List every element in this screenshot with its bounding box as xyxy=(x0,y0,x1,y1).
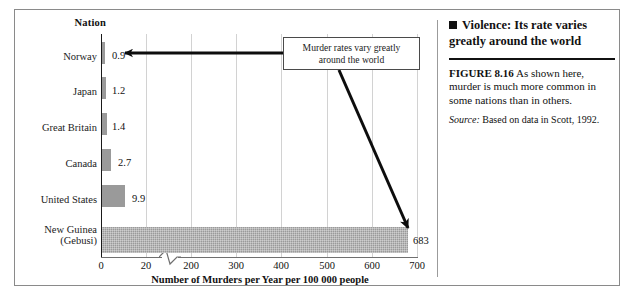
x-axis-title: Number of Murders per Year per 100 000 p… xyxy=(101,274,419,285)
category-axis-line xyxy=(101,34,102,258)
source-label: Source: xyxy=(449,114,480,125)
figure-frame: Nation Norway 0.9 Ja xyxy=(14,9,620,286)
figure-number: FIGURE 8.16 xyxy=(449,67,514,79)
gridline-200 xyxy=(191,34,192,257)
x-tick-label: 400 xyxy=(273,260,289,271)
headline-text: Violence: Its rate varies greatly around… xyxy=(449,18,587,48)
figure-caption: FIGURE 8.16 As shown here, murder is muc… xyxy=(449,67,615,108)
x-tick-label: 300 xyxy=(228,260,244,271)
bar-value-label: 1.2 xyxy=(112,85,125,96)
bar-value-label: 9.9 xyxy=(132,193,145,204)
panel-divider xyxy=(437,20,438,277)
x-tick-label: 500 xyxy=(319,260,335,271)
square-bullet-icon xyxy=(449,21,457,29)
category-label: Japan xyxy=(27,86,97,97)
bar xyxy=(102,185,125,207)
caption-divider xyxy=(449,58,615,60)
callout-arrow-to-new-guinea-icon xyxy=(335,68,425,240)
x-tick-label: 0 xyxy=(98,260,103,271)
category-label: Norway xyxy=(27,51,97,62)
x-tick-label: 700 xyxy=(409,260,425,271)
value-axis-line-left xyxy=(101,257,162,258)
callout-line-1: Murder rates vary greatly xyxy=(303,42,401,53)
x-tick-label: 200 xyxy=(183,260,199,271)
gridline-20 xyxy=(146,34,147,257)
gridline-300 xyxy=(236,34,237,257)
category-label-line2: (Gebusi) xyxy=(60,235,97,246)
bar xyxy=(102,77,106,99)
bar xyxy=(102,149,111,171)
category-label: United States xyxy=(27,194,97,205)
bar-value-label: 2.7 xyxy=(118,157,131,168)
source-note: Source: Based on data in Scott, 1992. xyxy=(449,114,615,127)
category-label: New Guinea (Gebusi) xyxy=(27,224,97,246)
callout-line-2: around the world xyxy=(319,54,385,65)
category-label: Great Britain xyxy=(27,122,97,133)
x-tick-label: 600 xyxy=(364,260,380,271)
bar-value-label: 1.4 xyxy=(112,121,125,132)
value-axis-line-right xyxy=(178,257,418,258)
bar xyxy=(102,113,107,135)
chart-panel: Nation Norway 0.9 Ja xyxy=(15,10,437,285)
bar xyxy=(102,42,105,64)
source-text: Based on data in Scott, 1992. xyxy=(482,114,599,125)
x-tick-label: 20 xyxy=(141,260,152,271)
category-label-line1: New Guinea xyxy=(44,224,97,235)
category-label: Canada xyxy=(27,158,97,169)
callout-annotation: Murder rates vary greatly around the wor… xyxy=(283,37,420,70)
gridline-400 xyxy=(281,34,282,257)
text-panel: Violence: Its rate varies greatly around… xyxy=(449,18,615,127)
callout-arrow-to-norway-icon xyxy=(115,42,290,64)
headline: Violence: Its rate varies greatly around… xyxy=(449,18,615,49)
